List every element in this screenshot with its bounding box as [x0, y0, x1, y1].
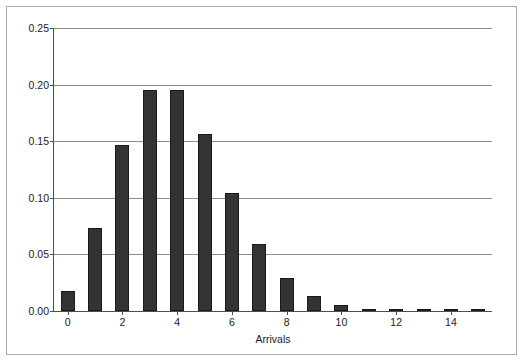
- chart-frame: 0.000.050.100.150.200.25 02468101214 Arr…: [6, 6, 517, 355]
- bar: [307, 296, 321, 311]
- y-axis-tick-mark: [50, 198, 54, 199]
- x-axis-tick-mark: [287, 311, 288, 315]
- x-axis-tick-label: 14: [445, 317, 457, 328]
- bar: [280, 278, 294, 311]
- bar: [225, 193, 239, 311]
- x-axis-tick-mark: [451, 311, 452, 315]
- bar: [143, 90, 157, 311]
- bar: [362, 309, 376, 311]
- gridline: [54, 85, 492, 86]
- x-axis-tick-mark: [122, 311, 123, 315]
- gridline: [54, 141, 492, 142]
- y-axis-tick-label: 0.15: [29, 136, 49, 147]
- y-axis-tick-label: 0.05: [29, 249, 49, 260]
- y-axis-tick-label: 0.10: [29, 193, 49, 204]
- plot-area: 0.000.050.100.150.200.25 02468101214 Arr…: [53, 28, 492, 312]
- y-axis-tick-mark: [50, 85, 54, 86]
- bar: [252, 244, 266, 311]
- x-axis-tick-label: 4: [174, 317, 180, 328]
- x-axis-tick-mark: [68, 311, 69, 315]
- bar: [417, 309, 431, 311]
- gridline: [54, 28, 492, 29]
- x-axis-tick-mark: [232, 311, 233, 315]
- x-axis-tick-mark: [396, 311, 397, 315]
- y-axis-tick-label: 0.25: [29, 23, 49, 34]
- y-axis-tick-mark: [50, 28, 54, 29]
- x-axis-tick-mark: [341, 311, 342, 315]
- x-axis-tick-label: 0: [65, 317, 71, 328]
- x-axis-tick-mark: [177, 311, 178, 315]
- bar: [198, 134, 212, 311]
- y-axis-tick-label: 0.00: [29, 306, 49, 317]
- x-axis-tick-label: 6: [229, 317, 235, 328]
- x-axis-tick-label: 10: [336, 317, 348, 328]
- y-axis-tick-label: 0.20: [29, 79, 49, 90]
- bar: [471, 309, 485, 311]
- x-axis-tick-label: 12: [390, 317, 402, 328]
- bar: [115, 145, 129, 311]
- y-axis-tick-mark: [50, 254, 54, 255]
- bar: [170, 90, 184, 311]
- bar: [88, 228, 102, 311]
- y-axis-tick-mark: [50, 311, 54, 312]
- y-axis-tick-mark: [50, 141, 54, 142]
- x-axis-tick-label: 2: [120, 317, 126, 328]
- bar: [61, 291, 75, 311]
- x-axis-title: Arrivals: [54, 333, 492, 345]
- x-axis-tick-label: 8: [284, 317, 290, 328]
